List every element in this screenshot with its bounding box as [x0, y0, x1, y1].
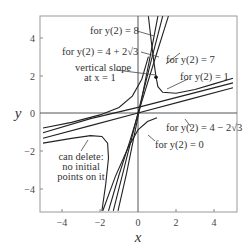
annotation-y2-7: for y(2) = 7 — [166, 54, 215, 66]
annotation-points-on-it: points on it — [57, 171, 104, 182]
y-axis-label: y — [13, 105, 22, 121]
annotation-y2-4minus: for y(2) = 4 − 2√3 — [166, 122, 242, 134]
annotation-y2-0: for y(2) = 0 — [155, 139, 204, 151]
annotation-y2-8: for y(2) = 8 — [90, 25, 139, 37]
x-tick-label: 4 — [212, 217, 217, 228]
x-tick-label: 2 — [174, 217, 179, 228]
y-tick-label: 0 — [30, 108, 35, 119]
y-tick-label: −4 — [24, 184, 35, 195]
x-tick-label: 0 — [136, 217, 141, 228]
annotation-at-x1: at x = 1 — [84, 72, 116, 83]
annotation-y2-4plus: for y(2) = 4 + 2√3 — [62, 46, 138, 58]
y-tick-label: 4 — [30, 33, 35, 44]
y-tick-label: −2 — [24, 146, 35, 157]
annotation-y2-1: for y(2) = 1 — [180, 71, 229, 83]
x-tick-label: −4 — [57, 217, 68, 228]
solution-curve — [103, 118, 157, 211]
y-tick-label: 2 — [30, 71, 35, 82]
solution-curves-plot: −4 −2 0 2 4 4 2 0 −2 −4 x y for y(2) = 8… — [0, 0, 248, 249]
x-axis-label: x — [134, 229, 142, 245]
vertical-slope-point — [154, 75, 158, 79]
x-tick-label: −2 — [95, 217, 106, 228]
